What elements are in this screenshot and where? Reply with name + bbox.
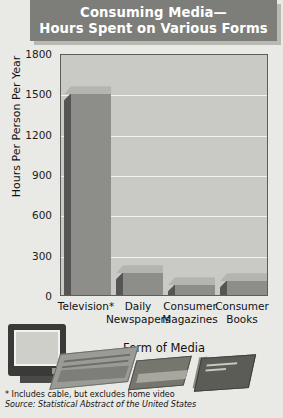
- bar-top: [168, 277, 215, 285]
- y-tick-1500: 1500: [0, 88, 52, 100]
- chart-title-line-1: Consuming Media—: [80, 5, 227, 21]
- bar-2: [175, 284, 215, 295]
- bar-top: [116, 265, 163, 273]
- x-tick-3: Consumer Books: [210, 300, 274, 325]
- chart-title-line-2: Hours Spent on Various Forms: [39, 21, 267, 37]
- y-tick-300: 300: [0, 250, 52, 262]
- book-illustration: [194, 354, 256, 392]
- bar-face: [227, 280, 267, 295]
- footnote-asterisk: * Includes cable, but excludes home vide…: [5, 390, 175, 399]
- bar-side: [116, 272, 123, 295]
- bar-side: [64, 93, 71, 295]
- bar-0: [71, 93, 111, 295]
- plot-area: [60, 54, 268, 296]
- chart-container: Consuming Media— Hours Spent on Various …: [0, 0, 283, 418]
- footnote-source-text: Statistical Abstract of the United State…: [35, 400, 196, 409]
- bar-top: [64, 86, 111, 94]
- bar-3: [227, 280, 267, 295]
- bar-top: [220, 273, 267, 281]
- y-tick-900: 900: [0, 169, 52, 181]
- bar-side: [168, 284, 175, 295]
- television-screen-icon: [14, 330, 60, 366]
- y-tick-1800: 1800: [0, 48, 52, 60]
- bar-face: [123, 272, 163, 295]
- bar-1: [123, 272, 163, 295]
- bar-side: [220, 280, 227, 295]
- footnote-source: Source: Statistical Abstract of the Unit…: [5, 400, 196, 409]
- bar-face: [71, 93, 111, 295]
- y-tick-1200: 1200: [0, 129, 52, 141]
- footnote-source-label: Source:: [5, 400, 35, 409]
- chart-title: Consuming Media— Hours Spent on Various …: [30, 0, 277, 41]
- y-tick-600: 600: [0, 209, 52, 221]
- bar-face: [175, 284, 215, 295]
- television-base: [20, 376, 54, 383]
- y-tick-0: 0: [0, 290, 52, 302]
